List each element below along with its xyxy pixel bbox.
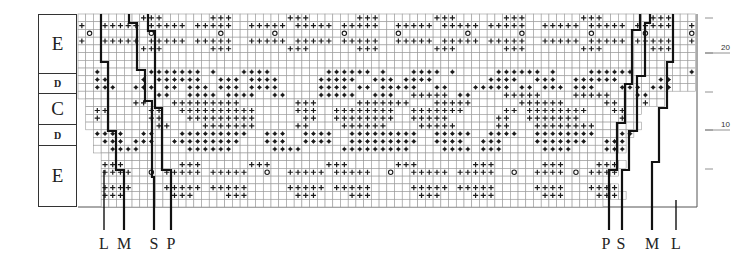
size-marker-right-p: P	[602, 235, 611, 253]
size-marker-right-m: M	[645, 235, 659, 253]
section-e-bottom: E	[38, 145, 77, 207]
size-marker-label: M	[645, 235, 659, 252]
size-marker-label: S	[150, 235, 159, 252]
section-label: D	[54, 130, 61, 141]
size-marker-label: S	[617, 235, 626, 252]
section-label: E	[52, 165, 64, 187]
section-label: E	[52, 33, 64, 55]
size-marker-label: P	[167, 235, 176, 252]
row-number-10: 10	[721, 120, 730, 129]
stitch-grid	[0, 0, 752, 269]
size-marker-label: M	[117, 235, 131, 252]
size-marker-right-l: L	[671, 235, 681, 253]
section-e-top: E	[38, 14, 77, 73]
size-marker-left-p: P	[167, 235, 176, 253]
row-number-label: 20	[721, 43, 730, 52]
section-d-upper: D	[38, 73, 77, 93]
row-number-20: 20	[721, 43, 730, 52]
knitting-chart: E D C D E 20 10 L M S P P S M L	[0, 0, 752, 269]
size-marker-label: L	[671, 235, 681, 252]
section-label: C	[51, 98, 64, 120]
section-d-lower: D	[38, 124, 77, 145]
size-marker-label: P	[602, 235, 611, 252]
section-label: D	[54, 78, 61, 89]
size-marker-left-s: S	[150, 235, 159, 253]
section-c: C	[38, 93, 77, 124]
size-marker-right-s: S	[617, 235, 626, 253]
size-marker-left-l: L	[99, 235, 109, 253]
row-number-label: 10	[721, 120, 730, 129]
size-marker-left-m: M	[117, 235, 131, 253]
size-marker-label: L	[99, 235, 109, 252]
